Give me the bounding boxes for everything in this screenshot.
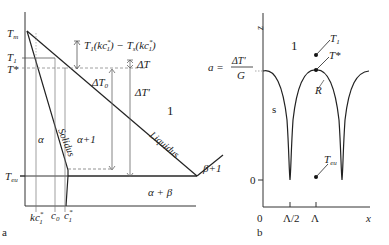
alpha-region-label: α (38, 133, 44, 145)
z-zero-label: 0 (250, 174, 256, 186)
liquid-region-label: 1 (167, 103, 174, 118)
a-formula-lhs: a = (208, 61, 224, 73)
radius-label: R (314, 84, 322, 96)
liquidus-label: Liquidus (147, 128, 182, 160)
x-axis-label: x (365, 212, 371, 224)
formula-label: T1(kc*1) − Ts(kc*1) (84, 38, 156, 53)
tm-label: Tm (7, 27, 18, 41)
delta-t0-label: ΔT0 (91, 76, 109, 90)
c0-label: c0 (51, 209, 60, 223)
panel-b-label: b (257, 226, 263, 238)
panel-b: z x 0 0 Λ/2 Λ 1 s a = ΔT' G T1 T* R Teu … (208, 13, 371, 238)
alpha-liquid-region-label: α+1 (77, 133, 96, 145)
liquid-region-label-b: 1 (291, 38, 298, 53)
panel-a-label: a (2, 226, 7, 238)
kc-label: kc*1 (30, 210, 44, 226)
teu-point-label: Teu (324, 153, 337, 167)
t1-point-label: T1 (330, 32, 340, 46)
panel-a: Tm T1 T* Teu kc*1 c0 c*1 α α+1 1 α + β β… (2, 12, 223, 238)
a-formula-numerator: ΔT' (231, 55, 246, 66)
solidus-line (27, 31, 68, 206)
a-formula-denominator: G (237, 69, 245, 81)
lambda-tick-label: Λ (311, 212, 319, 224)
tstar-label: T* (7, 63, 19, 75)
delta-t-label: ΔT (136, 58, 150, 70)
x-zero-label: 0 (257, 212, 263, 224)
alpha-beta-region-label: α + β (148, 186, 173, 198)
delta-t-prime-label: ΔT' (134, 86, 151, 98)
tstar-point-label: T* (329, 49, 341, 61)
figure: Tm T1 T* Teu kc*1 c0 c*1 α α+1 1 α + β β… (0, 0, 389, 245)
z-axis-label: z (254, 26, 265, 31)
c1-label: c*1 (64, 208, 73, 224)
teu-label: Teu (5, 170, 18, 184)
solid-region-label: s (272, 103, 276, 115)
beta-liquid-region-label: β+1 (202, 162, 221, 174)
lambda-half-tick-label: Λ/2 (283, 212, 300, 224)
